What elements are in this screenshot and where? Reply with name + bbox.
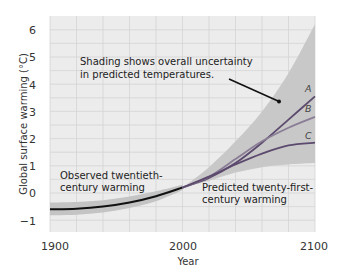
y-tick-6: 6 [29, 24, 36, 37]
y-tick-1: 1 [29, 160, 36, 173]
y-tick-5: 5 [29, 51, 36, 64]
series-label-a: A [304, 83, 312, 94]
observed-label-line-2: century warming [60, 182, 145, 193]
arrow-head-icon [277, 100, 281, 104]
warming-chart: 6 5 4 3 2 1 0 −1 1900 2000 2100 Year Glo… [0, 0, 343, 277]
x-axis-title: Year [176, 256, 199, 267]
series-label-b: B [305, 103, 312, 114]
annotation-line-2: in predicted temperatures. [80, 69, 214, 80]
series-label-c: C [305, 130, 312, 141]
x-tick-2100: 2100 [300, 240, 328, 253]
y-tick-neg1: −1 [20, 215, 36, 228]
y-tick-3: 3 [29, 106, 36, 119]
y-tick-2: 2 [29, 133, 36, 146]
annotation-line-1: Shading shows overall uncertainty [80, 56, 253, 67]
predicted-label-line-2: century warming [202, 194, 287, 205]
y-axis-title: Global surface warming (°C) [18, 53, 29, 195]
x-axis-ticks: 1900 2000 2100 [41, 240, 328, 253]
predicted-label-line-1: Predicted twenty-first- [202, 182, 314, 193]
y-tick-4: 4 [29, 79, 36, 92]
y-tick-0: 0 [29, 187, 36, 200]
x-tick-2000: 2000 [169, 240, 197, 253]
observed-label-line-1: Observed twentieth- [60, 170, 163, 181]
x-tick-1900: 1900 [41, 240, 69, 253]
